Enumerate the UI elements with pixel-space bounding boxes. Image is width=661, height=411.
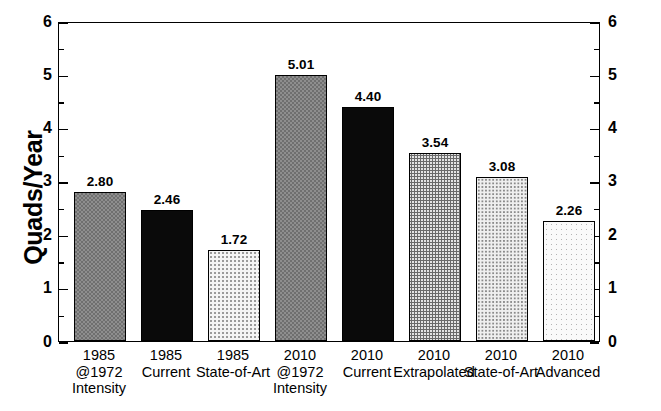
bar-4[interactable]: 4.40 — [342, 107, 394, 341]
bar-value-6: 3.08 — [489, 159, 515, 174]
bar-1[interactable]: 2.46 — [141, 210, 193, 341]
y-tick-label-left-2: 2 — [26, 227, 52, 243]
y-major-tick-right-4 — [590, 129, 599, 131]
y-tick-label-left-3: 3 — [26, 173, 52, 189]
y-tick-label-right-2: 2 — [608, 227, 634, 243]
bar-value-7: 2.26 — [556, 203, 582, 218]
y-minor-tick-2p5 — [59, 209, 64, 211]
y-minor-tick-right-2p5 — [594, 209, 599, 211]
x-axis-label-7-line1: 2010 — [497, 347, 639, 364]
y-minor-tick-5p5 — [59, 49, 64, 51]
y-tick-label-right-5: 5 — [608, 67, 634, 83]
y-major-tick-right-5 — [590, 76, 599, 78]
bar-value-5: 3.54 — [422, 135, 448, 150]
bar-value-4: 4.40 — [355, 89, 381, 104]
y-minor-tick-0p5 — [59, 316, 64, 318]
bar-0[interactable]: 2.80 — [74, 192, 126, 341]
x-axis-label-7: 2010 Advanced — [497, 347, 639, 380]
y-major-tick-5 — [59, 76, 68, 78]
y-axis-title: Quads/Year — [19, 113, 48, 283]
y-tick-label-left-1: 1 — [26, 280, 52, 296]
y-tick-label-left-4: 4 — [26, 120, 52, 136]
y-tick-label-right-3: 3 — [608, 173, 634, 189]
plot-area: 2.80 2.46 1.72 5.01 4.40 3.54 3.08 2.26 — [58, 22, 600, 342]
y-major-tick-right-3 — [590, 182, 599, 184]
x-axis-label-3-line3: Intensity — [229, 380, 371, 397]
y-tick-label-left-5: 5 — [26, 67, 52, 83]
y-major-tick-1 — [59, 289, 68, 291]
bar-3[interactable]: 5.01 — [275, 75, 327, 342]
bar-7[interactable]: 2.26 — [543, 221, 595, 341]
bar-value-1: 2.46 — [154, 192, 180, 207]
y-tick-label-right-1: 1 — [608, 280, 634, 296]
y-minor-tick-right-3p5 — [594, 156, 599, 158]
x-axis-label-7-line2: Advanced — [497, 364, 639, 381]
bar-2[interactable]: 1.72 — [208, 250, 260, 342]
y-major-tick-3 — [59, 182, 68, 184]
y-minor-tick-3p5 — [59, 156, 64, 158]
bar-chart: Quads/Year 6 5 4 3 2 1 0 6 5 4 3 2 1 0 — [0, 0, 661, 411]
y-major-tick-right-0 — [590, 342, 599, 344]
bar-value-2: 1.72 — [221, 232, 247, 247]
y-minor-tick-right-4p5 — [594, 102, 599, 104]
bar-value-0: 2.80 — [87, 174, 113, 189]
y-minor-tick-4p5 — [59, 102, 64, 104]
y-minor-tick-right-5p5 — [594, 49, 599, 51]
y-major-tick-right-6 — [590, 22, 599, 24]
y-major-tick-6 — [59, 22, 68, 24]
y-tick-label-right-6: 6 — [608, 14, 634, 30]
x-axis-label-0-line3: Intensity — [28, 380, 170, 397]
y-minor-tick-1p5 — [59, 262, 64, 264]
y-tick-label-right-4: 4 — [608, 120, 634, 136]
y-major-tick-4 — [59, 129, 68, 131]
y-major-tick-2 — [59, 236, 68, 238]
y-tick-label-left-6: 6 — [26, 14, 52, 30]
bar-6[interactable]: 3.08 — [476, 177, 528, 341]
bar-value-3: 5.01 — [288, 57, 314, 72]
y-major-tick-0 — [59, 342, 68, 344]
bar-5[interactable]: 3.54 — [409, 153, 461, 341]
